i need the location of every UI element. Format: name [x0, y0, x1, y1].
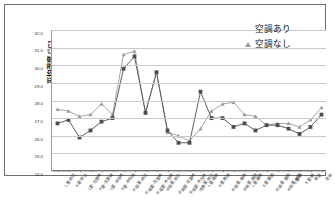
y-tick-label: 26.0 [17, 138, 43, 142]
chart-legend: 空調あり 空調なし [230, 22, 322, 52]
x-tick-mark [245, 170, 246, 172]
x-tick-mark [80, 170, 81, 172]
y-tick-label: 32.0 [17, 32, 43, 36]
data-point-marker [122, 67, 126, 71]
data-point-marker [188, 141, 192, 145]
data-point-marker [89, 129, 93, 133]
x-tick-mark [91, 170, 92, 172]
x-tick-mark [322, 170, 323, 172]
gridline [52, 153, 326, 154]
y-tick-label: 24.0 [17, 173, 43, 177]
x-tick-mark [278, 170, 279, 172]
x-tick-mark [58, 170, 59, 172]
gridline [52, 136, 326, 137]
data-point-marker [177, 141, 181, 145]
x-tick-mark [300, 170, 301, 172]
data-point-marker [133, 49, 137, 53]
x-tick-mark [289, 170, 290, 172]
x-tick-label: 子供室-在室時 [177, 173, 196, 195]
y-tick-label: 28.0 [17, 102, 43, 106]
data-point-marker [100, 120, 104, 124]
data-point-marker [210, 109, 214, 113]
x-tick-label: R.寝室-在室時 [144, 173, 163, 195]
data-point-marker [144, 111, 148, 115]
data-point-marker [320, 113, 324, 117]
gridline [52, 65, 326, 66]
x-tick-mark [190, 170, 191, 172]
legend-item-with-ac: 空調あり [230, 22, 322, 37]
legend-label-without-ac: 空調なし [255, 40, 291, 49]
triangle-marker-icon [244, 25, 253, 34]
x-tick-mark [179, 170, 180, 172]
x-tick-label: R.寝室-不在時 [155, 173, 174, 195]
gridline [52, 101, 326, 102]
data-point-marker [287, 127, 291, 131]
legend-label-with-ac: 空調あり [255, 25, 291, 34]
x-tick-label: 子供室-不在時 [188, 173, 207, 195]
x-tick-mark [212, 170, 213, 172]
data-point-marker [199, 90, 203, 94]
square-marker-icon [244, 40, 253, 49]
data-point-marker [265, 123, 269, 127]
data-point-marker [254, 129, 258, 133]
data-point-marker [243, 122, 247, 126]
gridline [52, 83, 326, 84]
legend-item-without-ac: 空調なし [230, 37, 322, 52]
x-tick-mark [69, 170, 70, 172]
y-tick-label: 25.0 [17, 155, 43, 159]
data-point-marker [276, 123, 280, 127]
y-tick-label: 30.0 [17, 67, 43, 71]
data-point-marker [56, 122, 60, 126]
data-point-marker [166, 129, 170, 133]
x-tick-mark [102, 170, 103, 172]
x-tick-mark [267, 170, 268, 172]
x-tick-mark [201, 170, 202, 172]
y-tick-label: 31.0 [17, 49, 43, 53]
x-tick-mark [135, 170, 136, 172]
data-point-marker [100, 102, 104, 106]
data-point-marker [155, 70, 159, 74]
x-tick-mark [168, 170, 169, 172]
x-tick-mark [223, 170, 224, 172]
x-tick-mark [146, 170, 147, 172]
y-tick-label: 27.0 [17, 120, 43, 124]
x-tick-mark [113, 170, 114, 172]
gridline [52, 118, 326, 119]
y-tick-label: 29.0 [17, 85, 43, 89]
data-point-marker [232, 125, 236, 129]
x-tick-mark [124, 170, 125, 172]
x-tick-mark [234, 170, 235, 172]
data-point-marker [320, 106, 324, 110]
x-tick-mark [311, 170, 312, 172]
x-tick-mark [256, 170, 257, 172]
data-point-marker [309, 125, 313, 129]
data-point-marker [133, 55, 137, 59]
x-tick-mark [157, 170, 158, 172]
